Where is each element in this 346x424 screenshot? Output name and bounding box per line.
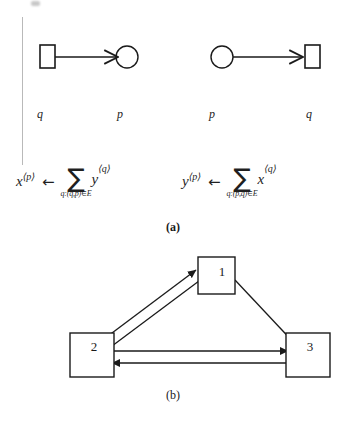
panel-a: q p p q x⟨p⟩ ← ∑ q:(q,p)∈E y⟨q⟩ y⟨p⟩ ← ∑… [0,0,346,245]
right-diagram-source-label: p [209,108,215,120]
caption-panel-a: (a) [0,220,346,235]
figure-root: q p p q x⟨p⟩ ← ∑ q:(q,p)∈E y⟨q⟩ y⟨p⟩ ← ∑… [0,0,346,424]
diagram-left-message-in [40,45,138,68]
left-diagram-target-label: p [117,108,123,120]
formula-right-assign-arrow: ← [208,173,221,191]
panel-a-diagrams [0,0,346,150]
caption-panel-b: (b) [0,388,346,403]
formula-x-update: x⟨p⟩ ← ∑ q:(q,p)∈E y⟨q⟩ [16,166,110,196]
panel-b: 1 2 3 [0,245,346,395]
formula-right-summation: ∑ q:(p,q)∈E [226,168,257,198]
formula-left-operand-superscript: ⟨q⟩ [98,163,110,174]
summation-sigma-icon: ∑ [233,168,251,189]
edge-1-to-2 [104,278,203,352]
graph-node-2-label: 2 [79,339,109,355]
formula-right-operand: x⟨q⟩ [257,168,276,187]
graph-node-1-label: 1 [207,264,237,280]
summation-sigma-icon: ∑ [67,168,85,189]
formula-left-lhs-var: x [16,173,23,190]
formula-left-summation: ∑ q:(q,p)∈E [60,168,91,198]
left-diagram-source-label: q [37,108,43,120]
formula-left-sum-subscript: q:(q,p)∈E [60,190,91,198]
formula-right-sum-subscript: q:(p,q)∈E [226,190,257,198]
formula-y-update: y⟨p⟩ ← ∑ q:(p,q)∈E x⟨q⟩ [182,166,276,196]
right-diagram-target-label: q [306,108,312,120]
formula-left-operand: y⟨q⟩ [91,168,110,187]
formula-right-lhs-superscript: ⟨p⟩ [189,171,201,182]
diagram-right-message-out [211,45,320,68]
formula-right-operand-superscript: ⟨q⟩ [264,163,276,174]
panel-b-graph [0,245,346,395]
graph-node-3-label: 3 [295,339,325,355]
formula-left-lhs-superscript: ⟨p⟩ [23,171,35,182]
formula-left-assign-arrow: ← [42,173,55,191]
formula-right-lhs-var: y [182,173,189,190]
